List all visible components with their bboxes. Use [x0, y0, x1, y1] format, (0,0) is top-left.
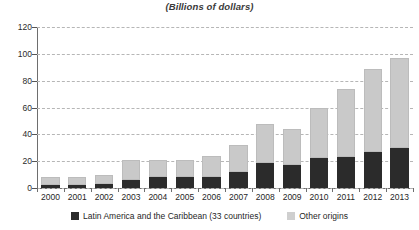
- bar-group: [229, 145, 247, 188]
- x-axis-tick-label: 2005: [171, 193, 198, 202]
- bar-group: [310, 108, 328, 188]
- bar-group: [202, 156, 220, 188]
- legend-label: Other origins: [299, 211, 348, 221]
- bar-segment-other-origins: [41, 177, 59, 185]
- legend-label: Latin America and the Caribbean (33 coun…: [83, 211, 261, 221]
- bar-segment-other-origins: [176, 160, 194, 177]
- x-axis-tick-mark: [306, 188, 307, 192]
- bar-segment-latin-america: [229, 172, 247, 188]
- x-axis-tick-label: 2009: [279, 193, 306, 202]
- bar-group: [390, 58, 408, 188]
- bar-segment-latin-america: [390, 148, 408, 188]
- y-axis-tick-label: 0: [8, 184, 32, 193]
- bar-segment-latin-america: [122, 180, 140, 188]
- x-axis-tick-mark: [64, 188, 65, 192]
- bar-group: [337, 89, 355, 188]
- bar-segment-latin-america: [310, 158, 328, 188]
- bar-segment-other-origins: [68, 177, 86, 185]
- bar-segment-other-origins: [149, 160, 167, 177]
- y-axis-tick-label: 20: [8, 157, 32, 166]
- bar-group: [95, 175, 113, 188]
- x-axis-tick-mark: [198, 188, 199, 192]
- legend-item: Other origins: [287, 211, 348, 221]
- x-axis-tick-mark: [279, 188, 280, 192]
- x-axis-tick-label: 2007: [225, 193, 252, 202]
- bar-segment-latin-america: [283, 165, 301, 188]
- bar-segment-other-origins: [122, 160, 140, 180]
- bar-segment-other-origins: [229, 145, 247, 172]
- bar-segment-latin-america: [149, 177, 167, 188]
- bar-segment-other-origins: [256, 124, 274, 163]
- bar-segment-latin-america: [41, 185, 59, 188]
- plot-area: [37, 27, 413, 188]
- bar-segment-other-origins: [283, 129, 301, 165]
- bar-segment-latin-america: [176, 177, 194, 188]
- x-axis-tick-mark: [118, 188, 119, 192]
- x-axis-tick-label: 2004: [144, 193, 171, 202]
- y-axis-tick-label: 100: [8, 50, 32, 59]
- bar-segment-latin-america: [95, 184, 113, 188]
- bar-segment-latin-america: [68, 185, 86, 188]
- x-axis-tick-mark: [386, 188, 387, 192]
- x-axis-tick-label: 2002: [91, 193, 118, 202]
- x-axis-tick-mark: [144, 188, 145, 192]
- bar-segment-other-origins: [390, 58, 408, 148]
- bar-segment-other-origins: [337, 89, 355, 157]
- bar-segment-other-origins: [364, 69, 382, 152]
- bar-group: [68, 177, 86, 188]
- bar-group: [283, 129, 301, 188]
- stacked-bar-chart: (Billions of dollars) 020406080100120 20…: [0, 0, 419, 230]
- x-axis-tick-mark: [171, 188, 172, 192]
- x-axis-tick-label: 2013: [386, 193, 413, 202]
- legend-swatch-icon: [287, 212, 295, 220]
- bar-series-container: [37, 27, 413, 188]
- x-axis-tick-mark: [359, 188, 360, 192]
- x-axis-tick-mark: [252, 188, 253, 192]
- bar-group: [176, 160, 194, 188]
- bar-segment-latin-america: [364, 152, 382, 188]
- bar-group: [256, 124, 274, 188]
- bar-segment-other-origins: [310, 108, 328, 159]
- bar-segment-latin-america: [256, 163, 274, 188]
- y-axis-tick-label: 60: [8, 104, 32, 113]
- bar-segment-latin-america: [202, 177, 220, 188]
- x-axis-tick-label: 2010: [306, 193, 333, 202]
- x-axis-tick-mark: [413, 188, 414, 192]
- bar-group: [41, 177, 59, 188]
- x-axis-tick-label: 2006: [198, 193, 225, 202]
- bar-segment-latin-america: [337, 157, 355, 188]
- y-axis-tick-label: 40: [8, 130, 32, 139]
- x-axis-tick-label: 2012: [359, 193, 386, 202]
- bar-group: [364, 69, 382, 188]
- x-axis-tick-label: 2000: [37, 193, 64, 202]
- x-axis-tick-mark: [225, 188, 226, 192]
- y-axis-tick-label: 120: [8, 23, 32, 32]
- legend-item: Latin America and the Caribbean (33 coun…: [71, 211, 261, 221]
- x-axis-tick-mark: [91, 188, 92, 192]
- x-axis-tick-mark: [332, 188, 333, 192]
- legend-swatch-icon: [71, 212, 79, 220]
- bar-group: [149, 160, 167, 188]
- bar-segment-other-origins: [202, 156, 220, 177]
- x-axis-tick-label: 2001: [64, 193, 91, 202]
- x-axis-tick-label: 2011: [332, 193, 359, 202]
- chart-title: (Billions of dollars): [0, 1, 419, 12]
- chart-legend: Latin America and the Caribbean (33 coun…: [0, 211, 419, 221]
- x-axis-tick-mark: [37, 188, 38, 192]
- bar-group: [122, 160, 140, 188]
- bar-segment-other-origins: [95, 175, 113, 184]
- x-axis-tick-label: 2003: [118, 193, 145, 202]
- y-axis-tick-label: 80: [8, 77, 32, 86]
- x-axis-tick-label: 2008: [252, 193, 279, 202]
